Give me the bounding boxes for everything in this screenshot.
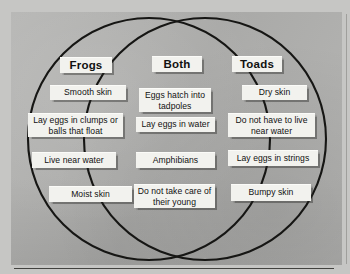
item-frogs-2: Live near water — [32, 152, 116, 168]
item-toads-1: Do not have to live near water — [228, 113, 315, 137]
right-edge-line — [346, 14, 347, 264]
venn-circles — [0, 0, 350, 274]
title-both: Both — [152, 56, 202, 72]
circle-frogs — [28, 18, 270, 260]
item-both-2: Amphibians — [136, 152, 215, 168]
venn-diagram-screenshot: Frogs Smooth skin Lay eggs in clumps or … — [0, 0, 350, 274]
item-both-0: Eggs hatch into tadpoles — [139, 88, 211, 112]
item-both-1: Lay eggs in water — [136, 117, 215, 132]
bottom-rule — [14, 268, 334, 269]
item-toads-0: Dry skin — [242, 85, 307, 100]
item-frogs-0: Smooth skin — [50, 85, 126, 100]
item-toads-2: Lay eggs in strings — [228, 150, 318, 166]
item-both-3: Do not take care of their young — [134, 184, 215, 208]
item-toads-3: Bumpy skin — [231, 184, 311, 201]
item-frogs-3: Moist skin — [49, 186, 132, 202]
circle-toads — [84, 18, 326, 260]
title-toads: Toads — [232, 56, 282, 72]
title-frogs: Frogs — [60, 57, 112, 73]
item-frogs-1: Lay eggs in clumps or balls that float — [28, 113, 123, 137]
